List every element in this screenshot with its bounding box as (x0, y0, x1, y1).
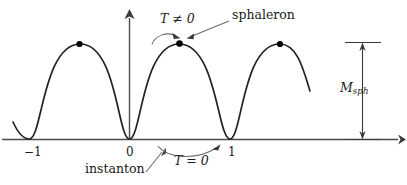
energy-curve-group (13, 44, 310, 139)
t-zero-label: T = 0 (174, 155, 209, 168)
m-sph-symbol: M (340, 80, 353, 95)
m-sph-label: Msph (340, 82, 369, 96)
x-tick-label-zero: 0 (126, 146, 134, 158)
sphaleron-peak-center-marker (176, 40, 183, 47)
x-tick-label-one: 1 (228, 146, 236, 158)
sphaleron-markers (76, 40, 283, 47)
sphaleron-leader-line (191, 21, 229, 37)
sphaleron-label: sphaleron (232, 9, 295, 22)
sphaleron-peak-left-marker (76, 41, 82, 47)
x-axis-arrowhead (398, 135, 406, 145)
x-tick-label-minus-one: −1 (24, 146, 42, 158)
t-zero-arrowhead (212, 144, 220, 150)
sphaleron-leader-arrowhead (187, 33, 195, 39)
energy-curve (13, 44, 310, 139)
t-nonzero-arrowhead (172, 33, 180, 39)
t-nonzero-label: T ≠ 0 (160, 13, 195, 26)
sphaleron-energy-diagram: −1 0 1 sphaleron instanton T ≠ 0 T = 0 M… (0, 0, 407, 185)
axis-group (2, 9, 406, 145)
t-nonzero-arc-group (152, 33, 181, 44)
instanton-label: instanton (85, 163, 145, 176)
t-nonzero-arc (152, 34, 176, 45)
y-axis-arrowhead (125, 9, 135, 19)
instanton-leader-line (146, 152, 162, 172)
sphaleron-peak-right-marker (277, 41, 283, 47)
m-sph-subscript: sph (353, 86, 369, 96)
